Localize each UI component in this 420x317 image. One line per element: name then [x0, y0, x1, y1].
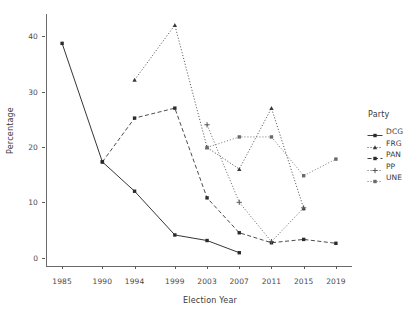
x-tick-label: 1990 — [93, 277, 113, 286]
data-point — [270, 135, 273, 138]
series-frg — [132, 23, 306, 210]
y-axis-line — [46, 14, 47, 266]
x-axis-title: Election Year — [0, 296, 420, 305]
x-tick-mark — [207, 266, 208, 269]
data-point — [101, 160, 104, 163]
data-point — [269, 106, 273, 110]
series-line — [102, 108, 336, 243]
data-point — [237, 200, 242, 205]
data-point — [238, 251, 241, 254]
y-tick-label: 30 — [16, 87, 38, 96]
x-tick-label: 1999 — [165, 277, 185, 286]
x-tick-mark — [336, 266, 337, 269]
x-tick-label: 1985 — [52, 277, 72, 286]
data-point — [204, 122, 209, 127]
legend-key-icon — [366, 161, 384, 172]
data-point — [302, 238, 305, 241]
y-tick-label: 20 — [16, 142, 38, 151]
series-line — [135, 25, 304, 208]
legend-item-pan[interactable]: PAN — [366, 149, 418, 160]
x-tick-mark — [271, 266, 272, 269]
legend-item-label: PP — [386, 161, 395, 172]
data-point — [302, 174, 305, 177]
legend-key-icon — [366, 172, 384, 183]
data-point — [205, 196, 208, 199]
legend-item-label: UNE — [386, 172, 402, 183]
data-point — [238, 231, 241, 234]
legend-title: Party — [368, 110, 390, 119]
legend-item-dcg[interactable]: DCG — [366, 126, 418, 137]
y-tick-label: 10 — [16, 198, 38, 207]
y-tick-mark — [42, 36, 45, 37]
y-axis-title: Percentage — [6, 91, 15, 171]
series-line — [62, 43, 239, 252]
legend-item-une[interactable]: UNE — [366, 172, 418, 183]
chart-root: 198519901994199920032007201120152019 010… — [0, 0, 420, 317]
y-tick-mark — [42, 202, 45, 203]
data-point — [173, 23, 177, 27]
x-tick-mark — [304, 266, 305, 269]
x-tick-label: 1994 — [125, 277, 145, 286]
data-point — [334, 157, 337, 160]
series-line — [207, 137, 336, 176]
x-tick-mark — [175, 266, 176, 269]
x-tick-mark — [239, 266, 240, 269]
series-pp — [204, 122, 306, 244]
legend-item-label: FRG — [386, 138, 402, 149]
y-tick-mark — [42, 258, 45, 259]
x-tick-label: 2007 — [230, 277, 250, 286]
series-dcg — [60, 42, 241, 255]
legend-item-frg[interactable]: FRG — [366, 138, 418, 149]
y-tick-mark — [42, 92, 45, 93]
data-point — [133, 116, 136, 119]
legend-item-label: PAN — [386, 149, 401, 160]
data-point — [334, 242, 337, 245]
legend-key-icon — [366, 149, 384, 160]
y-tick-label: 0 — [16, 253, 38, 262]
data-point — [237, 167, 241, 171]
y-tick-label: 40 — [16, 32, 38, 41]
x-tick-mark — [135, 266, 136, 269]
data-point — [132, 78, 136, 82]
x-tick-label: 2011 — [262, 277, 282, 286]
chart-plot-area — [0, 0, 420, 317]
data-point — [60, 42, 63, 45]
x-tick-label: 2019 — [326, 277, 346, 286]
data-point — [173, 233, 176, 236]
data-point — [133, 190, 136, 193]
legend-key-icon — [366, 126, 384, 137]
data-point — [173, 106, 176, 109]
legend-key-icon — [366, 138, 384, 149]
legend-item-label: DCG — [386, 126, 403, 137]
data-point — [205, 239, 208, 242]
x-tick-label: 2015 — [294, 277, 314, 286]
y-tick-mark — [42, 147, 45, 148]
x-tick-mark — [102, 266, 103, 269]
x-tick-label: 2003 — [197, 277, 217, 286]
x-tick-mark — [62, 266, 63, 269]
data-point — [238, 135, 241, 138]
legend-item-pp[interactable]: PP — [366, 161, 418, 172]
series-une — [205, 135, 337, 177]
x-axis-line — [46, 266, 352, 267]
data-point — [205, 146, 208, 149]
